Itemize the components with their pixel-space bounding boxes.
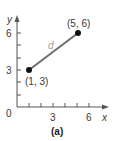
y-tick-label-6: 6: [6, 28, 12, 39]
y-tick-marks: [17, 33, 21, 95]
x-axis-label: x: [101, 112, 108, 123]
coordinate-diagram: y x 0 6 3 3 6 d (1, 3) (5, 6) (a): [0, 0, 120, 141]
origin-label: 0: [6, 108, 12, 119]
x-tick-marks: [29, 103, 89, 107]
point-label-1-3: (1, 3): [25, 76, 48, 87]
y-axis-arrow-icon: [15, 15, 20, 22]
x-axis-arrow-icon: [102, 105, 109, 110]
point-1-3: [26, 67, 32, 73]
segment-label: d: [48, 40, 54, 51]
x-tick-label-3: 3: [50, 112, 56, 123]
y-tick-label-3: 3: [6, 65, 12, 76]
x-tick-label-6: 6: [86, 112, 92, 123]
y-axis-label: y: [6, 14, 13, 25]
point-5-6: [75, 30, 81, 36]
segment-d: [29, 33, 78, 70]
figure-caption: (a): [51, 126, 63, 137]
point-label-5-6: (5, 6): [67, 18, 90, 29]
